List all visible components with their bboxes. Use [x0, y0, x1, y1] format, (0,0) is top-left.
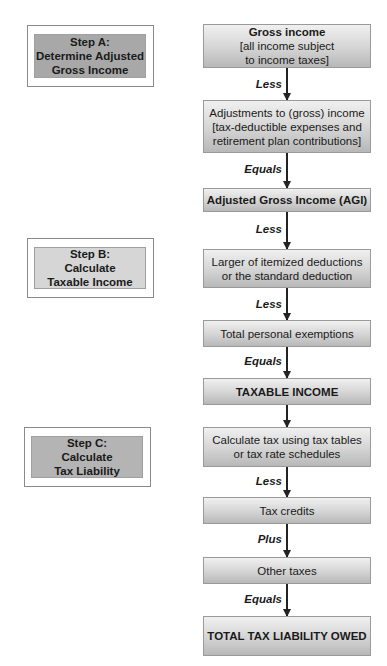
calculate-tax-line-1: Calculate tax using tax tables: [212, 433, 362, 447]
other-taxes-label: Other taxes: [257, 564, 316, 578]
arrow-2: [286, 153, 288, 188]
arrow-4: [286, 288, 288, 320]
operator-equals-2: Equals: [244, 355, 282, 367]
total-tax-liability-label: TOTAL TAX LIABILITY OWED: [207, 629, 366, 643]
exemptions-label: Total personal exemptions: [220, 327, 354, 341]
step-c-line-3: Tax Liability: [54, 464, 120, 478]
step-b-line-1: Step B:: [70, 247, 110, 261]
step-a-line-1: Step A:: [70, 35, 110, 49]
step-c-line-2: Calculate: [61, 450, 112, 464]
adjustments-box: Adjustments to (gross) income [tax-deduc…: [203, 100, 371, 153]
deductions-box: Larger of itemized deductions or the sta…: [203, 249, 371, 288]
operator-equals-3: Equals: [244, 593, 282, 605]
deductions-line-2: or the standard deduction: [222, 269, 352, 283]
operator-equals-1: Equals: [244, 163, 282, 175]
step-c-label: Step C: Calculate Tax Liability: [31, 436, 143, 478]
agi-box: Adjusted Gross Income (AGI): [203, 188, 371, 212]
arrow-1: [286, 68, 288, 100]
calculate-tax-line-2: or tax rate schedules: [234, 447, 341, 461]
step-a-line-3: Gross Income: [52, 63, 129, 77]
tax-credits-box: Tax credits: [203, 497, 371, 524]
step-c-box: Step C: Calculate Tax Liability: [24, 427, 151, 487]
other-taxes-box: Other taxes: [203, 557, 371, 584]
taxable-income-label: TAXABLE INCOME: [236, 385, 339, 399]
step-a-box: Step A: Determine Adjusted Gross Income: [27, 25, 154, 87]
step-b-line-3: Taxable Income: [47, 275, 132, 289]
gross-income-desc-1: [all income subject: [240, 39, 335, 53]
step-b-box: Step B: Calculate Taxable Income: [27, 238, 154, 298]
step-b-line-2: Calculate: [64, 261, 115, 275]
calculate-tax-box: Calculate tax using tax tables or tax ra…: [203, 427, 371, 467]
arrow-6: [286, 405, 288, 427]
deductions-line-1: Larger of itemized deductions: [212, 255, 363, 269]
arrow-3: [286, 212, 288, 249]
agi-label: Adjusted Gross Income (AGI): [207, 193, 367, 207]
operator-less-2: Less: [256, 223, 282, 235]
adjustments-line-3: retirement plan contributions]: [213, 134, 361, 148]
arrow-8: [286, 524, 288, 557]
operator-less-3: Less: [256, 298, 282, 310]
step-a-line-2: Determine Adjusted: [36, 49, 144, 63]
arrow-5: [286, 347, 288, 378]
step-b-label: Step B: Calculate Taxable Income: [34, 247, 146, 289]
exemptions-box: Total personal exemptions: [203, 320, 371, 347]
taxable-income-box: TAXABLE INCOME: [203, 378, 371, 405]
step-c-line-1: Step C:: [67, 436, 107, 450]
arrow-9: [286, 584, 288, 616]
operator-less-1: Less: [256, 78, 282, 90]
adjustments-line-1: Adjustments to (gross) income: [209, 106, 364, 120]
gross-income-desc-2: to income taxes]: [245, 53, 329, 67]
arrow-7: [286, 467, 288, 497]
total-tax-liability-box: TOTAL TAX LIABILITY OWED: [203, 616, 371, 656]
adjustments-line-2: [tax-deductible expenses and: [212, 120, 362, 134]
step-a-label: Step A: Determine Adjusted Gross Income: [34, 34, 146, 78]
gross-income-box: Gross income [all income subject to inco…: [203, 24, 371, 68]
operator-plus: Plus: [258, 533, 282, 545]
tax-credits-label: Tax credits: [260, 504, 315, 518]
operator-less-4: Less: [256, 475, 282, 487]
gross-income-title: Gross income: [249, 25, 326, 39]
